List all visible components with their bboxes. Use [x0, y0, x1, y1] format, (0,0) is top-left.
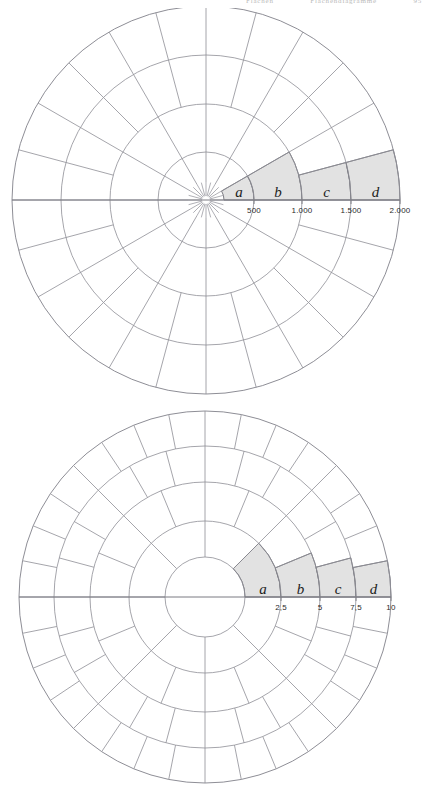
ring-label-b: b	[297, 581, 305, 597]
spoke-r3-11	[59, 558, 94, 567]
grid-group	[19, 411, 391, 783]
spoke-r4-3	[309, 63, 344, 98]
spoke-r4-29	[331, 681, 360, 700]
spoke-r3-22	[305, 655, 336, 673]
spoke-r4-9	[169, 415, 176, 449]
spoke-r4-19	[50, 681, 79, 700]
tick-label-a: 500	[247, 206, 261, 215]
tick-label-b: 5	[318, 603, 323, 612]
spoke-r3-7	[168, 60, 181, 107]
spoke-r4-11	[102, 442, 121, 471]
spoke-r4-7	[234, 415, 241, 449]
spoke-r3-15	[98, 678, 123, 703]
hub-spoke-17	[201, 204, 205, 218]
spoke-r3-19	[231, 293, 244, 340]
spoke-r4-25	[234, 745, 241, 779]
spoke-r3-13	[59, 627, 94, 636]
highlight-cell-a	[233, 543, 281, 597]
spoke-r2-11	[161, 667, 176, 703]
spoke-r3-5	[231, 60, 244, 107]
spoke-r3-21	[274, 268, 309, 303]
hub-spoke-11	[189, 195, 203, 199]
spoke-r1-5	[151, 625, 176, 650]
spoke-r4-4	[312, 465, 337, 490]
hub-spoke-13	[189, 201, 203, 205]
hub-spoke-7	[201, 183, 205, 197]
spoke-r1-7	[233, 625, 258, 650]
polar-chart-top-canvas: 5001.0001.5002.000abcd	[0, 8, 422, 408]
spoke-r2-15	[275, 626, 311, 641]
spoke-r4-19	[244, 340, 257, 387]
ring-label-b: b	[274, 184, 282, 200]
spoke-r4-17	[156, 340, 169, 387]
spoke-r4-22	[134, 737, 147, 769]
spoke-r4-7	[156, 13, 169, 60]
polar-chart-bottom: 2,557,510abcd	[0, 408, 422, 810]
spoke-r3-9	[103, 97, 138, 132]
spoke-r4-21	[309, 303, 344, 338]
hub-spoke-19	[207, 204, 211, 218]
spoke-r4-27	[289, 723, 308, 752]
spoke-r3-19	[235, 708, 244, 743]
spoke-r1-8	[182, 216, 197, 242]
figure-page: Flächen Flächendiagramme 95 5001.0001.50…	[0, 0, 422, 810]
spoke-r2-2	[259, 516, 287, 544]
spoke-r4-11	[19, 150, 66, 163]
spoke-r4-6	[263, 425, 276, 457]
spoke-r4-31	[353, 626, 387, 633]
ring-label-c: c	[335, 581, 342, 597]
hub-spoke-1	[210, 195, 224, 199]
spoke-r2-5	[123, 152, 165, 176]
spoke-r3-13	[66, 225, 113, 238]
spoke-r4-10	[134, 425, 147, 457]
spoke-r4-5	[244, 13, 257, 60]
spoke-r2-14	[259, 651, 287, 679]
spoke-r1-2	[215, 158, 230, 184]
spoke-r3-2	[289, 128, 331, 153]
spoke-r1-3	[151, 543, 176, 568]
spoke-r1-11	[222, 209, 248, 224]
hub-spoke-23	[210, 201, 224, 205]
spoke-r4-8	[109, 32, 134, 74]
highlighted-wedges	[233, 543, 391, 597]
ring-label-a: a	[235, 184, 243, 200]
spoke-r4-4	[279, 32, 304, 74]
spoke-r4-18	[33, 655, 65, 668]
spoke-r2-7	[123, 224, 165, 248]
spoke-r4-20	[73, 704, 98, 729]
spoke-r2-10	[124, 651, 152, 679]
spoke-r4-22	[332, 273, 374, 298]
spoke-r3-14	[80, 248, 122, 273]
ring-label-a: a	[259, 581, 267, 597]
spoke-r3-10	[74, 522, 105, 540]
spoke-r4-13	[50, 494, 79, 513]
spoke-r4-9	[69, 63, 104, 98]
spoke-r3-15	[103, 268, 138, 303]
spoke-r2-2	[230, 117, 254, 159]
spoke-r3-3	[286, 490, 311, 515]
spoke-r4-28	[312, 704, 337, 729]
spoke-r4-30	[345, 655, 377, 668]
spoke-r2-7	[99, 553, 135, 568]
spoke-r3-5	[235, 451, 244, 486]
spoke-r2-3	[234, 491, 249, 527]
tick-label-a: 2,5	[275, 603, 287, 612]
spoke-r3-20	[263, 697, 281, 728]
spoke-r4-13	[19, 238, 66, 251]
spoke-r1-5	[164, 176, 190, 191]
spoke-r4-26	[263, 737, 276, 769]
grid-group	[12, 8, 400, 394]
spoke-r3-23	[299, 225, 346, 238]
spoke-r3-4	[263, 466, 281, 497]
running-head-left: Flächen	[246, 0, 274, 5]
spoke-r2-13	[234, 667, 249, 703]
ring-label-c: c	[323, 184, 330, 200]
spoke-r3-4	[254, 74, 279, 116]
tick-label-c: 7,5	[350, 603, 362, 612]
spoke-r4-15	[69, 303, 104, 338]
spoke-r2-8	[158, 242, 182, 284]
spoke-r2-5	[161, 491, 176, 527]
spoke-r3-7	[166, 451, 175, 486]
spoke-r4-17	[23, 626, 57, 633]
running-head-right: 95	[413, 0, 422, 5]
